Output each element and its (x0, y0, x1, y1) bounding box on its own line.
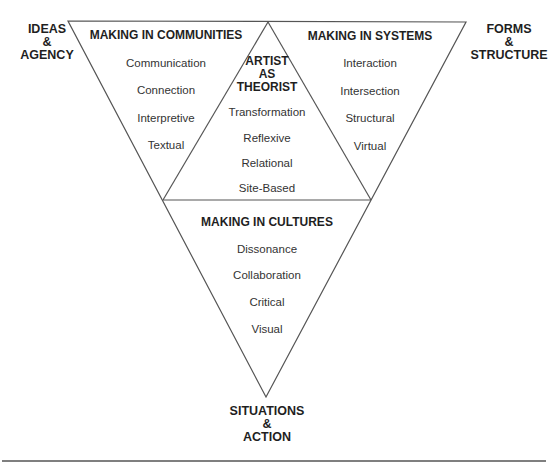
list-item: Reflexive (243, 132, 290, 145)
list-item: Site-Based (239, 182, 295, 195)
list-item: Structural (345, 112, 394, 125)
corner-label-ideas-agency: IDEAS & AGENCY (20, 23, 73, 62)
list-item: Transformation (229, 106, 306, 119)
list-item: Intersection (340, 85, 399, 98)
list-item: Critical (249, 296, 284, 309)
corner-line: ACTION (230, 431, 305, 444)
corner-label-forms-structure: FORMS & STRUCTURE (470, 23, 547, 62)
list-item: Interaction (343, 57, 397, 70)
corner-label-situations-action: SITUATIONS & ACTION (230, 405, 305, 444)
list-item: Virtual (354, 140, 386, 153)
section-title-systems: MAKING IN SYSTEMS (308, 30, 433, 43)
list-item: Textual (148, 139, 184, 152)
section-title-theorist: ARTIST AS THEORIST (237, 55, 298, 94)
list-item: Relational (241, 157, 292, 170)
section-title-communities: MAKING IN COMMUNITIES (90, 29, 243, 42)
list-item: Interpretive (137, 112, 195, 125)
corner-line: AGENCY (20, 49, 73, 62)
section-title-cultures: MAKING IN CULTURES (201, 216, 333, 229)
list-item: Collaboration (233, 269, 301, 282)
list-item: Visual (251, 323, 282, 336)
list-item: Dissonance (237, 243, 297, 256)
corner-line: STRUCTURE (470, 49, 547, 62)
list-item: Communication (126, 57, 206, 70)
title-line: THEORIST (237, 81, 298, 94)
list-item: Connection (137, 84, 195, 97)
